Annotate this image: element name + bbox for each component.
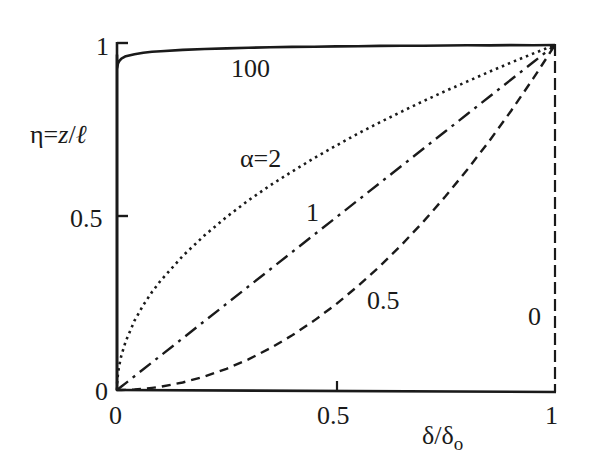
curve-alpha-1 — [117, 45, 555, 390]
chart: 1 0.5 0 0 0.5 1 η=z/ℓ δ/δo 100 α=2 1 0.5… — [0, 0, 592, 471]
x-axis-title-delta: δ/δ — [422, 421, 454, 450]
curve-label-0: 0 — [528, 302, 541, 331]
y-axis-title-z: z — [57, 120, 68, 149]
curve-label-alpha-2: α=2 — [240, 144, 281, 173]
curve-label-100: 100 — [231, 54, 270, 83]
x-axis-title-subscript: o — [454, 433, 464, 454]
x-tick-label-0: 0 — [109, 401, 122, 430]
axes — [116, 42, 556, 392]
x-axis-title: δ/δo — [422, 421, 463, 454]
x-tick-label-1: 1 — [545, 401, 558, 430]
curve-label-1: 1 — [306, 198, 319, 227]
y-axis-title-eta: η= — [30, 120, 58, 149]
y-tick-label-0: 0 — [95, 377, 108, 406]
y-axis-title: η=z/ℓ — [30, 120, 87, 149]
x-tick-label-0-5: 0.5 — [317, 401, 350, 430]
y-tick-label-0-5: 0.5 — [70, 204, 103, 233]
curves-group — [117, 44, 555, 392]
y-axis-title-ell: ℓ — [76, 120, 87, 149]
y-tick-label-1: 1 — [96, 32, 109, 61]
curve-label-0-5: 0.5 — [367, 286, 400, 315]
